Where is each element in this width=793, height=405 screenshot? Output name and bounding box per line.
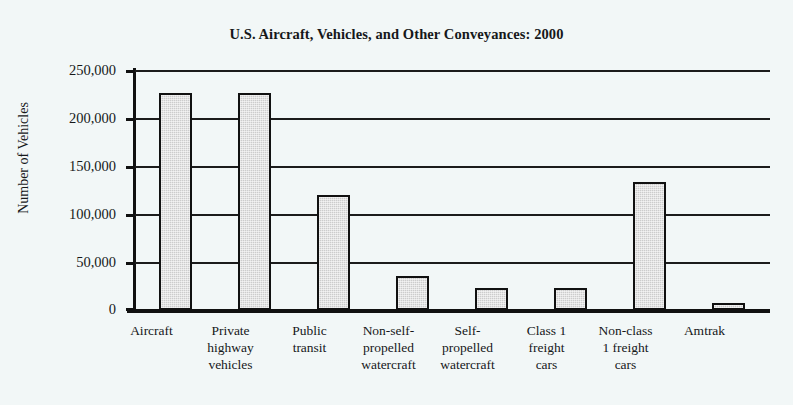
- y-axis-line: [133, 68, 136, 312]
- bar-public-transit[interactable]: [317, 195, 350, 310]
- category-label-line: Amtrak: [658, 322, 751, 339]
- category-label-line: 1 freight: [579, 339, 672, 356]
- bar-non-class-1-freight-cars[interactable]: [633, 182, 666, 310]
- bar-amtrak[interactable]: [712, 303, 745, 310]
- y-tick-mark: [126, 308, 135, 311]
- bar-aircraft[interactable]: [159, 93, 192, 310]
- y-tick-label: 0: [20, 301, 116, 318]
- bar-non-self-propelled-watercraft[interactable]: [396, 276, 429, 310]
- bar-chart-figure: U.S. Aircraft, Vehicles, and Other Conve…: [0, 0, 793, 405]
- x-axis-baseline: [127, 309, 770, 313]
- y-tick-label: 50,000: [20, 254, 116, 271]
- gridline-50000: [135, 262, 770, 264]
- y-tick-label: 150,000: [20, 158, 116, 175]
- y-tick-label: 100,000: [20, 206, 116, 223]
- bar-self-propelled-watercraft[interactable]: [475, 288, 508, 310]
- category-label-line: vehicles: [184, 356, 277, 373]
- gridline-150000: [135, 166, 770, 168]
- category-label-amtrak: Amtrak: [658, 322, 751, 339]
- gridline-250000: [135, 70, 770, 72]
- y-tick-label: 250,000: [20, 62, 116, 79]
- y-tick-mark: [126, 70, 135, 73]
- y-tick-mark: [126, 166, 135, 169]
- chart-title: U.S. Aircraft, Vehicles, and Other Conve…: [0, 26, 793, 43]
- y-tick-mark: [126, 262, 135, 265]
- gridline-200000: [135, 118, 770, 120]
- plot-area: [135, 70, 770, 310]
- y-tick-label: 200,000: [20, 110, 116, 127]
- gridline-100000: [135, 214, 770, 216]
- y-tick-mark: [126, 118, 135, 121]
- bar-class-1-freight-cars[interactable]: [554, 288, 587, 310]
- category-label-line: cars: [579, 356, 672, 373]
- y-tick-mark: [126, 214, 135, 217]
- bar-private-highway-vehicles[interactable]: [238, 93, 271, 310]
